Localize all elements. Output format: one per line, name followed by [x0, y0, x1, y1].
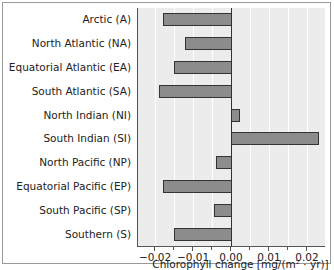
x-minor-tick — [249, 247, 250, 250]
category-label: South Pacific (SP) — [39, 204, 131, 217]
category-label: Equatorial Pacific (EP) — [16, 180, 131, 193]
bar-south-indian-si — [231, 132, 319, 145]
gridline — [269, 8, 270, 246]
bar-south-atlantic-sa — [159, 85, 232, 98]
gridline — [288, 8, 289, 246]
gridline — [326, 8, 327, 246]
x-axis-title: Chlorophyll change [mg/(m² · yr)] — [152, 258, 328, 270]
plot-area — [137, 8, 325, 247]
gridline — [307, 8, 308, 246]
category-label: Arctic (A) — [82, 13, 131, 26]
gridline — [174, 8, 175, 246]
gridline — [155, 8, 156, 246]
category-label: North Pacific (NP) — [39, 156, 131, 169]
gridline — [250, 8, 251, 246]
category-label: Southern (S) — [65, 228, 131, 241]
bar-north-pacific-np — [216, 156, 232, 169]
x-minor-tick — [211, 247, 212, 250]
bar-south-pacific-sp — [214, 204, 232, 217]
bar-equatorial-atlantic-ea — [174, 61, 232, 74]
x-minor-tick — [287, 247, 288, 250]
bar-north-atlantic-na — [185, 37, 232, 50]
category-label: South Indian (SI) — [43, 132, 131, 145]
bar-north-indian-ni — [231, 109, 240, 122]
bar-southern-s — [174, 228, 232, 241]
bar-arctic-a — [163, 13, 232, 26]
bar-equatorial-pacific-ep — [163, 180, 232, 193]
category-label: Equatorial Atlantic (EA) — [9, 61, 131, 74]
category-label: North Indian (NI) — [43, 109, 131, 122]
x-minor-tick — [173, 247, 174, 250]
category-label: South Atlantic (SA) — [32, 85, 131, 98]
category-label: North Atlantic (NA) — [32, 37, 131, 50]
